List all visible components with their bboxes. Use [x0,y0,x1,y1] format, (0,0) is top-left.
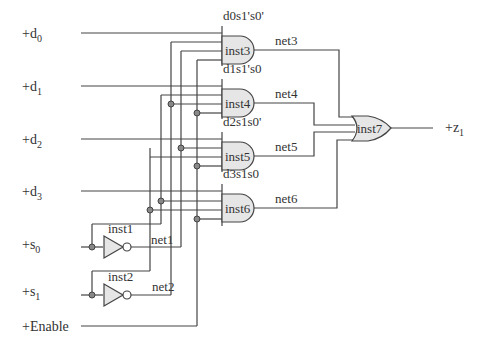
svg-text:+s1: +s1 [22,284,40,302]
input-label-d2: +d2 [22,132,42,150]
wire-net3 [254,50,355,117]
junction-dot [168,101,174,107]
net4-label: net4 [275,86,298,101]
svg-text:inst5: inst5 [225,149,250,164]
net6-label: net6 [275,191,298,206]
input-label-s1: +s1 [22,284,40,302]
svg-text:inst7: inst7 [357,121,383,136]
net5-label: net5 [275,139,297,154]
inverter-bubble-icon [123,291,131,299]
mux-circuit-diagram: +d0 +d1 +d2 +d3 +s0 +s1 +Enable inst1 ne… [0,0,482,349]
net1-label: net1 [151,232,173,247]
junction-dot [158,198,164,204]
svg-text:+d3: +d3 [22,184,42,202]
and-gate-inst6: inst6 d3s1s0 [222,166,259,226]
inverter-inst1: inst1 [104,221,133,258]
and-gate-inst4: inst4 d1s1's0 [222,61,261,119]
input-label-enable: +Enable [22,319,69,334]
junction-dot [194,110,200,116]
svg-text:inst6: inst6 [225,201,251,216]
and-gate-inst3: inst3 d0s1's0' [222,8,264,66]
svg-text:+z1: +z1 [445,120,464,138]
wire-net4 [254,103,355,125]
svg-text:+d2: +d2 [22,132,42,150]
input-label-s0: +s0 [22,237,40,255]
junction-dot [194,163,200,169]
or-gate-inst7: inst7 [352,116,391,141]
output-label-z1: +z1 [445,120,464,138]
svg-text:inst4: inst4 [225,96,251,111]
wire-net6 [254,140,355,208]
junction-dot [194,216,200,222]
term-label: d1s1's0 [223,61,261,76]
input-label-d1: +d1 [22,79,42,97]
junction-dot [178,145,184,151]
svg-text:+d0: +d0 [22,26,42,44]
svg-text:+d1: +d1 [22,79,42,97]
svg-text:inst2: inst2 [108,269,133,284]
term-label: d0s1's0' [223,8,264,23]
and-gate-inst5: inst5 d2s1s0' [222,114,261,172]
term-label: d3s1s0 [223,166,259,181]
input-label-d0: +d0 [22,26,42,44]
inverter-inst2: inst2 [104,269,133,306]
svg-text:inst1: inst1 [108,221,133,236]
junction-dot [147,207,153,213]
term-label: d2s1s0' [223,114,261,129]
input-label-d3: +d3 [22,184,42,202]
svg-text:+s0: +s0 [22,237,40,255]
inverter-bubble-icon [123,243,131,251]
wire-net5 [254,132,355,156]
junction-dot [89,292,95,298]
junction-dot [89,244,95,250]
svg-text:inst3: inst3 [225,43,250,58]
net3-label: net3 [275,33,297,48]
svg-text:+Enable: +Enable [22,319,69,334]
